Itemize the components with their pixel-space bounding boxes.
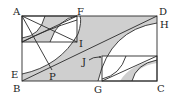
point-j — [99, 56, 101, 58]
label-h: H — [160, 19, 169, 30]
label-a: A — [12, 6, 21, 17]
label-d: D — [159, 6, 167, 17]
label-g: G — [94, 84, 102, 95]
label-e: E — [11, 69, 18, 80]
label-j: J — [81, 56, 86, 67]
label-f: F — [77, 6, 84, 17]
geometry-diagram: A F D H I J P E B G C — [0, 0, 173, 98]
label-b: B — [13, 83, 20, 94]
label-i: I — [79, 38, 83, 49]
label-c: C — [157, 83, 165, 94]
label-p: P — [49, 71, 56, 82]
